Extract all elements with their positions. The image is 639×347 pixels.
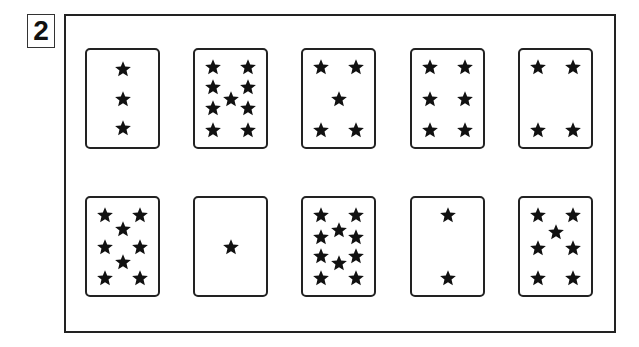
star-icon bbox=[131, 238, 149, 256]
star-icon bbox=[529, 58, 547, 76]
star-icon bbox=[312, 228, 330, 246]
star-icon bbox=[347, 269, 365, 287]
star-icon bbox=[421, 58, 439, 76]
star-icon bbox=[529, 121, 547, 139]
star-icon bbox=[330, 90, 348, 108]
star-icon bbox=[222, 238, 240, 256]
star-icon bbox=[239, 99, 257, 117]
star-icon bbox=[529, 269, 547, 287]
star-icon bbox=[204, 121, 222, 139]
star-icon bbox=[222, 90, 240, 108]
card-3 bbox=[301, 48, 376, 149]
problem-number-label: 2 bbox=[27, 14, 55, 48]
star-icon bbox=[547, 223, 565, 241]
star-icon bbox=[456, 121, 474, 139]
star-icon bbox=[564, 206, 582, 224]
card-10 bbox=[518, 196, 593, 297]
star-icon bbox=[347, 121, 365, 139]
star-icon bbox=[439, 206, 457, 224]
star-icon bbox=[347, 58, 365, 76]
star-icon bbox=[330, 221, 348, 239]
star-icon bbox=[312, 269, 330, 287]
card-7 bbox=[193, 196, 268, 297]
star-icon bbox=[114, 253, 132, 271]
star-icon bbox=[312, 121, 330, 139]
card-2 bbox=[193, 48, 268, 149]
star-icon bbox=[347, 228, 365, 246]
star-icon bbox=[239, 58, 257, 76]
card-8 bbox=[301, 196, 376, 297]
star-icon bbox=[421, 90, 439, 108]
star-icon bbox=[564, 269, 582, 287]
star-icon bbox=[529, 239, 547, 257]
star-icon bbox=[131, 269, 149, 287]
star-icon bbox=[330, 254, 348, 272]
star-icon bbox=[347, 206, 365, 224]
star-icon bbox=[564, 121, 582, 139]
star-icon bbox=[456, 58, 474, 76]
star-icon bbox=[439, 269, 457, 287]
star-icon bbox=[114, 90, 132, 108]
star-icon bbox=[564, 239, 582, 257]
star-icon bbox=[564, 58, 582, 76]
star-icon bbox=[96, 238, 114, 256]
star-icon bbox=[456, 90, 474, 108]
star-icon bbox=[96, 206, 114, 224]
star-icon bbox=[529, 206, 547, 224]
star-icon bbox=[312, 58, 330, 76]
star-icon bbox=[312, 206, 330, 224]
card-6 bbox=[85, 196, 160, 297]
star-icon bbox=[114, 119, 132, 137]
star-icon bbox=[312, 247, 330, 265]
star-icon bbox=[347, 247, 365, 265]
star-icon bbox=[204, 58, 222, 76]
card-5 bbox=[518, 48, 593, 149]
card-9 bbox=[410, 196, 485, 297]
star-icon bbox=[204, 99, 222, 117]
star-icon bbox=[96, 269, 114, 287]
star-icon bbox=[239, 121, 257, 139]
star-icon bbox=[114, 220, 132, 238]
star-icon bbox=[421, 121, 439, 139]
card-1 bbox=[85, 48, 160, 149]
star-icon bbox=[239, 78, 257, 96]
star-icon bbox=[114, 60, 132, 78]
card-4 bbox=[410, 48, 485, 149]
star-icon bbox=[204, 78, 222, 96]
star-icon bbox=[131, 206, 149, 224]
